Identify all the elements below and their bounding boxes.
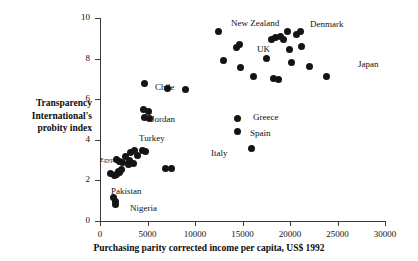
- x-axis-tick-label: 30000: [358, 229, 412, 239]
- data-point: [182, 86, 189, 93]
- x-axis-tick-label: 0: [73, 229, 127, 239]
- point-label: Spain: [250, 128, 271, 138]
- point-label: Greece: [253, 112, 278, 122]
- point-label: Pakistan: [111, 186, 142, 196]
- x-axis-tick-label: 15000: [216, 229, 270, 239]
- point-label: Italy: [211, 148, 228, 158]
- data-point: [112, 201, 119, 208]
- x-axis-title: Purchasing parity corrected income per c…: [0, 243, 418, 253]
- point-label: UK: [257, 44, 270, 54]
- data-point: [215, 28, 222, 35]
- x-axis-tick: [195, 221, 196, 226]
- x-axis-tick-label: 10000: [168, 229, 222, 239]
- x-axis-tick: [148, 221, 149, 226]
- point-label: Turkey: [139, 133, 165, 143]
- point-label: Nigeria: [130, 203, 157, 213]
- y-axis-tick-label: 8: [60, 54, 90, 63]
- y-axis-tick-label: 10: [60, 13, 90, 22]
- data-point: [306, 63, 313, 70]
- data-point: [237, 64, 244, 71]
- x-axis-tick-label: 20000: [263, 229, 317, 239]
- plot-area: [100, 18, 385, 221]
- point-label: Egypt: [100, 155, 116, 165]
- point-label: Chile: [155, 82, 175, 92]
- x-axis-tick: [290, 221, 291, 226]
- data-point: [263, 55, 270, 62]
- data-point: [141, 80, 148, 87]
- x-axis-tick-label: 5000: [121, 229, 175, 239]
- y-axis-tick-label: 4: [60, 135, 90, 144]
- y-axis-tick-label: 2: [60, 175, 90, 184]
- data-point: [142, 148, 149, 155]
- data-point: [288, 59, 295, 66]
- data-point: [118, 166, 125, 173]
- scatter-plot-figure: 0246810 050001000015000200002500030000 N…: [0, 0, 418, 261]
- data-point: [280, 36, 287, 43]
- data-point: [297, 28, 304, 35]
- point-label: Japan: [358, 59, 379, 69]
- y-axis-title: Transparency International's probity ind…: [6, 97, 92, 135]
- data-point: [248, 145, 255, 152]
- data-point: [275, 76, 282, 83]
- data-point: [236, 41, 243, 48]
- point-label: Jordan: [151, 114, 175, 124]
- x-axis-tick: [243, 221, 244, 226]
- data-point: [284, 28, 291, 35]
- point-label: Denmark: [310, 19, 344, 29]
- data-point: [323, 73, 330, 80]
- data-point: [130, 160, 137, 167]
- data-point: [286, 46, 293, 53]
- x-axis-tick: [338, 221, 339, 226]
- data-point: [298, 43, 305, 50]
- x-axis-tick: [100, 221, 101, 226]
- data-point: [220, 57, 227, 64]
- data-point: [234, 115, 241, 122]
- data-point: [141, 114, 148, 121]
- x-axis-tick-label: 25000: [311, 229, 365, 239]
- data-point: [168, 165, 175, 172]
- x-axis-tick: [385, 221, 386, 226]
- point-label: New Zealand: [231, 18, 279, 28]
- y-axis-tick-label: 0: [60, 216, 90, 225]
- data-point: [234, 128, 241, 135]
- data-point: [250, 73, 257, 80]
